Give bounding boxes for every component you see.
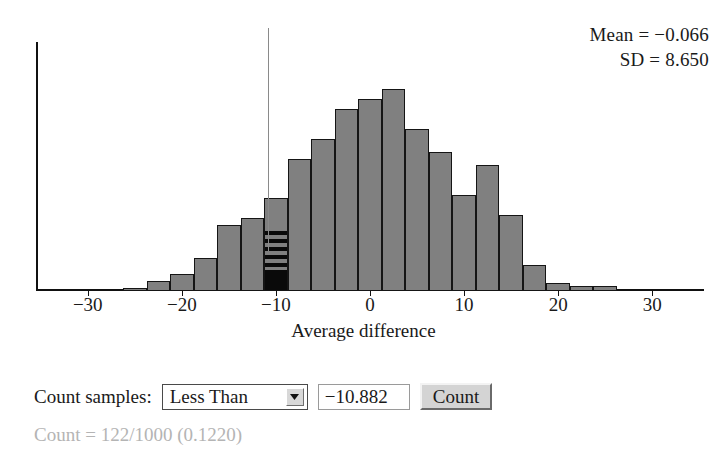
histogram-bar — [358, 99, 382, 291]
count-controls: Count samples: Less Than Count — [34, 383, 492, 410]
x-axis-tick-label: −30 — [73, 294, 103, 316]
operator-dropdown[interactable]: Less Than — [162, 384, 308, 410]
cutoff-line[interactable] — [268, 28, 269, 251]
histogram-bar — [476, 165, 500, 291]
histogram-bars — [0, 0, 727, 291]
x-axis-label: Average difference — [0, 320, 727, 342]
histogram-bar — [405, 129, 429, 291]
histogram-bar — [499, 215, 523, 291]
x-axis-tick-label: 20 — [549, 294, 568, 316]
histogram-bar — [570, 286, 594, 291]
count-samples-label: Count samples: — [34, 386, 152, 408]
histogram-bar — [523, 265, 547, 291]
operator-dropdown-value: Less Than — [163, 386, 286, 408]
histogram-bar — [429, 152, 453, 291]
histogram-bar-highlight — [265, 270, 287, 290]
histogram-bar — [593, 286, 617, 291]
x-axis-tick-label: 10 — [455, 294, 474, 316]
histogram-bar — [311, 139, 335, 291]
chevron-down-icon[interactable] — [286, 388, 304, 406]
histogram-bar — [241, 218, 265, 291]
x-axis-tick-label: −20 — [167, 294, 197, 316]
threshold-input[interactable] — [318, 384, 410, 410]
histogram-plot: −30−20−100102030 Average difference — [0, 0, 727, 320]
histogram-bar — [170, 274, 194, 291]
x-axis-tick-label: −10 — [261, 294, 291, 316]
histogram-bar — [452, 195, 476, 291]
x-axis-tick-label: 0 — [365, 294, 375, 316]
count-result-text: Count = 122/1000 (0.1220) — [34, 424, 242, 446]
histogram-bar — [194, 258, 218, 291]
histogram-bar — [546, 283, 570, 291]
histogram-bar — [123, 288, 147, 291]
histogram-bar — [147, 281, 171, 291]
count-button[interactable]: Count — [420, 383, 492, 410]
histogram-bar — [217, 225, 241, 291]
histogram-bar — [288, 159, 312, 291]
histogram-bar — [382, 89, 406, 291]
histogram-bar — [335, 109, 359, 291]
x-axis-tick-label: 30 — [643, 294, 662, 316]
